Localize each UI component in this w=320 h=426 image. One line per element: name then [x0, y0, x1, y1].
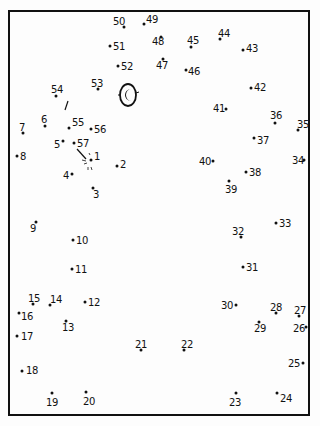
dot-label-14: 14	[50, 295, 62, 305]
dot-label-49: 49	[146, 15, 158, 25]
dot-label-46: 46	[188, 67, 200, 77]
dot-55	[68, 127, 71, 130]
dot-24	[276, 392, 279, 395]
dot-label-36: 36	[270, 111, 282, 121]
dot-42	[250, 87, 253, 90]
dot-11	[71, 268, 74, 271]
dot-38	[245, 171, 248, 174]
dot-label-42: 42	[254, 83, 266, 93]
dot-label-51: 51	[113, 42, 125, 52]
dot-label-52: 52	[121, 62, 133, 72]
dot-31	[242, 266, 245, 269]
dot-label-28: 28	[270, 303, 282, 313]
dot-label-31: 31	[246, 263, 258, 273]
dot-23	[235, 392, 238, 395]
dot-label-4: 4	[63, 171, 69, 181]
dot-label-16: 16	[21, 312, 33, 322]
dot-52	[117, 65, 120, 68]
dot-12	[84, 301, 87, 304]
dot-label-48: 48	[152, 37, 164, 47]
dot-label-41: 41	[213, 104, 225, 114]
dot-40	[212, 160, 215, 163]
stroke-mark	[65, 101, 68, 110]
dot-label-33: 33	[279, 219, 291, 229]
dot-label-55: 55	[72, 118, 84, 128]
dot-1	[90, 159, 93, 162]
dot-label-40: 40	[199, 157, 211, 167]
dot-label-25: 25	[288, 359, 300, 369]
dot-label-20: 20	[83, 397, 95, 407]
dot-label-15: 15	[28, 294, 40, 304]
dot-label-22: 22	[181, 340, 193, 350]
dot-label-17: 17	[21, 332, 33, 342]
dot-17	[16, 335, 19, 338]
dot-label-21: 21	[135, 340, 147, 350]
dot-43	[242, 49, 245, 52]
dot-label-24: 24	[280, 394, 292, 404]
dot-label-11: 11	[75, 265, 87, 275]
dot-label-27: 27	[294, 306, 306, 316]
dot-5	[62, 140, 65, 143]
dot-label-2: 2	[120, 160, 126, 170]
dot-56	[90, 128, 93, 131]
dot-33	[275, 222, 278, 225]
dot-36	[274, 122, 277, 125]
dot-label-3: 3	[93, 190, 99, 200]
dot-label-7: 7	[19, 123, 25, 133]
dot-51	[109, 45, 112, 48]
dot-label-9: 9	[30, 224, 36, 234]
dot-label-19: 19	[46, 398, 58, 408]
dot-4	[71, 173, 74, 176]
dot-label-10: 10	[76, 236, 88, 246]
stroke-mark	[77, 149, 86, 159]
dot-label-47: 47	[156, 61, 168, 71]
dot-label-32: 32	[232, 227, 244, 237]
dot-20	[85, 391, 88, 394]
dot-39	[228, 180, 231, 183]
dot-label-54: 54	[51, 85, 63, 95]
dot-label-23: 23	[229, 398, 241, 408]
dot-label-43: 43	[246, 44, 258, 54]
dot-label-50: 50	[113, 17, 125, 27]
dot-label-34: 34	[292, 156, 304, 166]
dot-label-26: 26	[293, 324, 305, 334]
eye-icon	[118, 84, 139, 106]
dot-10	[72, 239, 75, 242]
dot-label-57: 57	[77, 139, 89, 149]
dot-label-8: 8	[20, 152, 26, 162]
dot-label-18: 18	[26, 366, 38, 376]
dot-8	[16, 155, 19, 158]
dot-label-44: 44	[218, 29, 230, 39]
dot-label-37: 37	[257, 136, 269, 146]
dot-label-13: 13	[62, 323, 74, 333]
dot-label-53: 53	[91, 79, 103, 89]
dot-label-12: 12	[88, 298, 100, 308]
dot-2	[116, 165, 119, 168]
dot-19	[51, 392, 54, 395]
dot-label-39: 39	[225, 185, 237, 195]
dot-25	[302, 362, 305, 365]
puzzle-page: 1234567891011121314151617181920212223242…	[0, 0, 320, 426]
dot-label-38: 38	[249, 168, 261, 178]
dot-label-29: 29	[254, 324, 266, 334]
dot-label-1: 1	[94, 152, 100, 162]
dot-37	[253, 137, 256, 140]
dot-57	[73, 142, 76, 145]
dot-18	[21, 370, 24, 373]
dot-label-45: 45	[187, 36, 199, 46]
dot-label-6: 6	[41, 115, 47, 125]
dot-label-35: 35	[297, 120, 309, 130]
dot-30	[235, 304, 238, 307]
dot-label-30: 30	[221, 301, 233, 311]
dot-label-56: 56	[94, 125, 106, 135]
dot-label-5: 5	[54, 140, 60, 150]
